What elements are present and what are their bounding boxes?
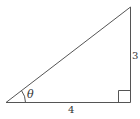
angle-arc	[22, 91, 26, 103]
triangle	[6, 7, 131, 103]
triangle-svg: θ 4 3	[0, 0, 140, 119]
triangle-diagram: θ 4 3	[0, 0, 140, 119]
height-label: 3	[132, 50, 138, 61]
base-label: 4	[68, 104, 74, 115]
right-angle-marker	[119, 91, 131, 103]
angle-label: θ	[27, 88, 34, 101]
